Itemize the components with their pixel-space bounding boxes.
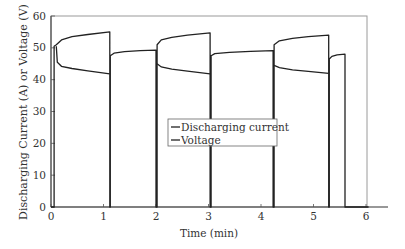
y-tick-label: 40 xyxy=(33,73,46,85)
voltage-segment xyxy=(157,64,210,74)
y-tick-label: 20 xyxy=(33,137,46,149)
x-tick-label: 3 xyxy=(205,210,212,222)
legend-label-current: Discharging current xyxy=(181,121,290,133)
x-tick-label: 5 xyxy=(310,210,317,222)
x-tick-label: 0 xyxy=(48,210,55,222)
x-tick-label: 6 xyxy=(363,210,370,222)
y-tick-label: 30 xyxy=(33,105,46,117)
y-tick-label: 0 xyxy=(39,201,46,213)
chart: 0102030405060 0123456 Discharging Curren… xyxy=(0,0,405,249)
voltage-segment xyxy=(274,65,329,73)
legend-label-voltage: Voltage xyxy=(180,134,221,146)
plot-frame xyxy=(51,16,367,207)
y-tick-label: 10 xyxy=(33,169,46,181)
x-tick-label: 1 xyxy=(100,210,107,222)
voltage-segment xyxy=(56,46,110,74)
x-tick-label: 4 xyxy=(258,210,265,222)
y-ticks: 0102030405060 xyxy=(33,10,55,213)
y-axis-label: Discharging Current (A) or Voltage (V) xyxy=(17,4,30,220)
legend: Discharging current Voltage xyxy=(168,119,290,146)
x-axis-label: Time (min) xyxy=(180,227,238,239)
series-voltage xyxy=(56,46,328,74)
y-tick-label: 50 xyxy=(33,41,46,53)
x-tick-label: 2 xyxy=(153,210,160,222)
y-tick-label: 60 xyxy=(33,10,46,22)
